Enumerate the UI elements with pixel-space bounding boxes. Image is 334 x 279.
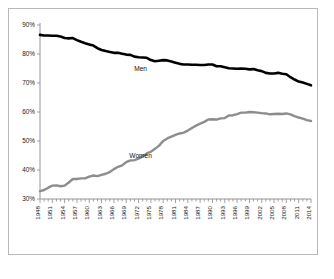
x-axis-tick-label: 2002 bbox=[256, 205, 263, 219]
y-axis-tick-label: 40% bbox=[22, 166, 35, 173]
x-axis-tick-label: 1951 bbox=[46, 205, 53, 219]
x-axis-tick-label: 1987 bbox=[194, 205, 201, 219]
x-axis-tick-label: 1999 bbox=[243, 205, 250, 219]
series-line-men bbox=[40, 35, 311, 85]
series-line-women bbox=[40, 112, 311, 191]
x-axis-tick-label: 1957 bbox=[71, 205, 78, 219]
x-axis-tick-label: 1963 bbox=[96, 205, 103, 219]
y-axis-tick-label: 70% bbox=[22, 79, 35, 86]
chart-plot-area: 90%80%70%60%50%40%30%1948195119541957196… bbox=[9, 9, 317, 254]
x-axis-tick-label: 2014 bbox=[305, 205, 312, 219]
y-axis-tick-label: 90% bbox=[22, 21, 35, 28]
y-axis-tick-label: 80% bbox=[22, 50, 35, 57]
y-axis-tick-label: 60% bbox=[22, 108, 35, 115]
x-axis-tick-label: 1972 bbox=[133, 205, 140, 219]
chart-figure-frame: 90%80%70%60%50%40%30%1948195119541957196… bbox=[8, 8, 318, 255]
x-axis-tick-label: 1966 bbox=[108, 205, 115, 219]
x-axis-tick-label: 2008 bbox=[280, 205, 287, 219]
x-axis-tick-label: 2005 bbox=[268, 205, 275, 219]
x-axis-tick-label: 1996 bbox=[231, 205, 238, 219]
x-axis-tick-label: 1978 bbox=[157, 205, 164, 219]
x-axis-tick-label: 1984 bbox=[182, 205, 189, 219]
labor-force-participation-line-chart: 90%80%70%60%50%40%30%1948195119541957196… bbox=[9, 9, 317, 254]
y-axis-tick-label: 50% bbox=[22, 137, 35, 144]
x-axis-tick-label: 1948 bbox=[34, 205, 41, 219]
x-axis-tick-label: 1969 bbox=[120, 205, 127, 219]
series-annotation-men: Men bbox=[134, 65, 147, 72]
x-axis-tick-label: 1960 bbox=[83, 205, 90, 219]
y-axis-tick-label: 30% bbox=[22, 195, 35, 202]
x-axis-tick-label: 1954 bbox=[59, 205, 66, 219]
x-axis-tick-label: 1981 bbox=[170, 205, 177, 219]
x-axis-tick-label: 2011 bbox=[293, 205, 300, 219]
figure-caption bbox=[10, 262, 326, 278]
x-axis-tick-label: 1993 bbox=[219, 205, 226, 219]
x-axis-tick-label: 1975 bbox=[145, 205, 152, 219]
x-axis-tick-label: 1990 bbox=[206, 205, 213, 219]
series-annotation-women: Women bbox=[129, 152, 152, 159]
